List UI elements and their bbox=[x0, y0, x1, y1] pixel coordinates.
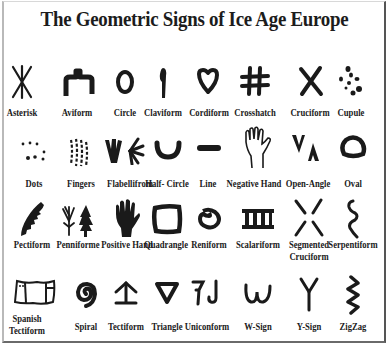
oval-sign-icon bbox=[338, 134, 368, 160]
claviform-sign-icon bbox=[156, 64, 170, 100]
serpentiform-sign-icon bbox=[343, 199, 363, 239]
triangle-sign-icon bbox=[154, 281, 180, 305]
label-asterisk: Asterisk bbox=[0, 107, 51, 119]
line-sign-icon bbox=[196, 144, 222, 152]
label-oval: Oval bbox=[324, 178, 381, 190]
half-circle-sign-icon bbox=[153, 140, 183, 160]
label-cupule: Cupule bbox=[322, 107, 379, 119]
label-uniconform: Uniconform bbox=[178, 321, 235, 333]
label-zigzag: ZigZag bbox=[324, 321, 381, 333]
fingers-sign-icon bbox=[68, 136, 90, 168]
cruciform-sign-icon bbox=[297, 65, 325, 97]
label-crosshatch: Crosshatch bbox=[226, 107, 283, 119]
zigzag-sign-icon bbox=[343, 275, 363, 315]
pectiform-sign-icon bbox=[17, 200, 47, 238]
cordiform-sign-icon bbox=[195, 67, 221, 95]
quadrangle-sign-icon bbox=[151, 203, 183, 235]
open-angle-sign-icon bbox=[291, 133, 323, 163]
label-serpentiform: Serpentiform bbox=[324, 239, 381, 251]
dots-sign-icon bbox=[18, 140, 48, 164]
segmented-cruciform-sign-icon bbox=[293, 198, 325, 238]
crosshatch-sign-icon bbox=[239, 65, 271, 97]
flabelliform-sign-icon bbox=[103, 137, 147, 165]
label-segmented-cruciform-line2: Cruciform bbox=[280, 251, 337, 263]
label-negative-hand: Negative Hand bbox=[225, 178, 282, 190]
label-spanish-tectiform: Spanish Tectiform bbox=[0, 313, 56, 337]
reniform-sign-icon bbox=[197, 207, 223, 231]
spanish-tectiform-sign-icon bbox=[13, 278, 57, 306]
negative-hand-sign-icon bbox=[243, 126, 273, 170]
w-sign-icon bbox=[243, 282, 273, 306]
tectiform-sign-icon bbox=[113, 280, 139, 306]
uniconform-sign-icon bbox=[190, 278, 224, 308]
scalariform-sign-icon bbox=[241, 207, 275, 231]
positive-hand-sign-icon bbox=[113, 198, 141, 238]
y-sign-icon bbox=[298, 276, 320, 312]
label-spanish-tectiform-line2: Tectiform bbox=[0, 325, 56, 337]
label-spanish-tectiform-line1: Spanish bbox=[0, 313, 56, 325]
circle-sign-icon bbox=[114, 67, 136, 97]
page-title: The Geometric Signs of Ice Age Europe bbox=[19, 7, 369, 32]
penniform-sign-icon bbox=[60, 203, 96, 237]
asterisk-sign-icon bbox=[10, 64, 34, 100]
spiral-sign-icon bbox=[73, 279, 99, 309]
aviform-sign-icon bbox=[62, 68, 96, 98]
label-scalariform: Scalariform bbox=[229, 239, 286, 251]
label-w-sign: W-Sign bbox=[229, 321, 286, 333]
cupule-sign-icon bbox=[337, 64, 365, 98]
